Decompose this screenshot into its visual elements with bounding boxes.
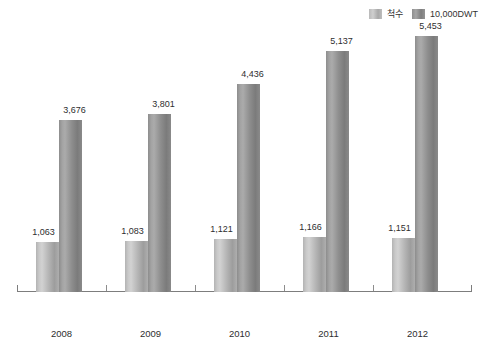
legend-label-series-b: 10,000DWT (430, 9, 478, 19)
bar-value-label: 1,151 (388, 223, 411, 233)
plot-area: 1,063 3,676 2008 1,083 3,801 2009 (17, 28, 472, 292)
bar-value-label: 3,801 (152, 99, 175, 109)
x-axis-label-2009: 2009 (106, 328, 195, 339)
bar-group-2008: 1,063 3,676 2008 (17, 28, 106, 292)
bar-group-2009: 1,083 3,801 2009 (106, 28, 195, 292)
bar-2010-series-a[interactable]: 1,121 (214, 239, 237, 292)
bar-2011-series-b[interactable]: 5,137 (326, 51, 349, 292)
bar-group-2012: 1,151 5,453 2012 (373, 28, 462, 292)
bar-2008-series-b[interactable]: 3,676 (59, 120, 82, 292)
bar-2012-series-b[interactable]: 5,453 (415, 36, 438, 292)
bar-value-label: 1,166 (299, 222, 322, 232)
bar-value-label: 3,676 (63, 105, 86, 115)
bar-2010-series-b[interactable]: 4,436 (237, 84, 260, 292)
x-axis-cap-right (471, 285, 472, 292)
x-axis-label-2010: 2010 (195, 328, 284, 339)
bar-2009-series-b[interactable]: 3,801 (148, 114, 171, 292)
bar-2009-series-a[interactable]: 1,083 (125, 241, 148, 292)
bar-value-label: 5,137 (330, 36, 353, 46)
bar-group-2010: 1,121 4,436 2010 (195, 28, 284, 292)
bar-value-label: 1,063 (32, 227, 55, 237)
bar-value-label: 5,453 (419, 21, 442, 31)
bar-2008-series-a[interactable]: 1,063 (36, 242, 59, 292)
legend-swatch-series-b (412, 9, 425, 19)
legend-label-series-a: 척수 (387, 9, 403, 19)
bar-group-2011: 1,166 5,137 2011 (284, 28, 373, 292)
chart-legend: 척수 10,000DWT (369, 7, 478, 21)
bar-value-label: 4,436 (241, 69, 264, 79)
x-axis-label-2011: 2011 (284, 328, 373, 339)
bar-value-label: 1,121 (210, 224, 233, 234)
bar-value-label: 1,083 (121, 226, 144, 236)
bar-2011-series-a[interactable]: 1,166 (303, 237, 326, 292)
legend-entry-series-a: 척수 (369, 9, 403, 19)
legend-entry-series-b: 10,000DWT (412, 9, 478, 19)
x-axis-label-2008: 2008 (17, 328, 106, 339)
x-axis-label-2012: 2012 (373, 328, 462, 339)
bar-2012-series-a[interactable]: 1,151 (392, 238, 415, 292)
legend-swatch-series-a (369, 9, 382, 19)
